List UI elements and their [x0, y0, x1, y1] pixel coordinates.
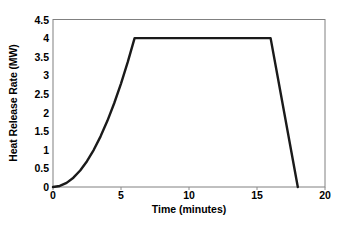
data-series-line	[53, 38, 298, 187]
plot-frame	[53, 20, 325, 188]
chart-figure: Heat Release Rate (MW) 00.511.522.533.54…	[0, 0, 345, 228]
x-axis-title: Time (minutes)	[53, 203, 325, 215]
plot-canvas	[0, 0, 345, 228]
